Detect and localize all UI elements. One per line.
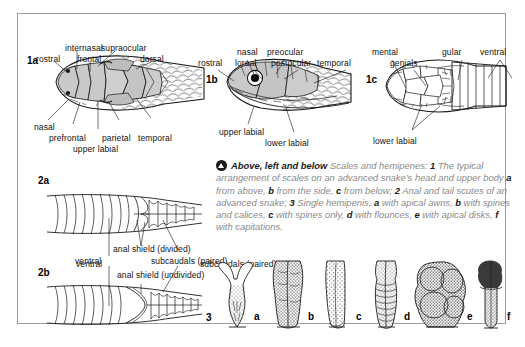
illustration-plate: 1a — [0, 0, 525, 347]
label-1a-parietal: parietal — [102, 133, 131, 143]
label-1c-mental: mental — [372, 47, 398, 57]
label-1b-rostral: rostral — [198, 58, 222, 68]
caption-item3e-num: e — [414, 209, 419, 220]
label-1a-internasal: internasal — [65, 43, 103, 53]
label-1b-loreal: loreal — [235, 58, 256, 68]
plate-frame: 1a — [17, 13, 506, 324]
caption-item1-num: 1 — [430, 160, 435, 171]
hemipenis-figure-e — [410, 261, 472, 333]
up-triangle-in-circle-icon — [216, 160, 227, 171]
label-1c-genials: genials — [390, 58, 418, 68]
hemipenis-figure-f — [473, 261, 509, 333]
caption-item3c-num: c — [268, 209, 273, 220]
label-1a-nasal: nasal — [34, 122, 55, 132]
caption-item1a-text: from above, — [216, 185, 266, 196]
caption-item3d-text: with flounces, — [355, 209, 412, 220]
caption-item3-num: 3 — [290, 197, 295, 208]
label-1a-rostral: rostral — [36, 54, 60, 64]
label-1a-dorsal: dorsal — [140, 54, 164, 64]
label-1b-nasal: nasal — [237, 47, 258, 57]
hemipenis-letter-d: d — [404, 311, 410, 322]
figure-caption: Above, left and below Scales and hemipen… — [216, 160, 516, 234]
label-1a-temporal: temporal — [138, 133, 172, 143]
hemipenis-letter-a: a — [254, 311, 260, 322]
label-1a-upper-labial: upper labial — [73, 144, 118, 154]
caption-item3d-num: d — [347, 209, 353, 220]
label-1a-frontal: frontal — [77, 54, 101, 64]
caption-item1b-num: b — [268, 185, 274, 196]
panel-id-2a: 2a — [38, 175, 49, 186]
caption-item3-text: Single hemipenis, — [297, 197, 371, 208]
caption-item3b-num: b — [455, 197, 461, 208]
label-1a-supraocular: supraocular — [101, 43, 147, 53]
label-2b-ventral: ventral — [76, 259, 102, 269]
label-2b-anal-shield: anal shield (undivided) — [117, 270, 204, 280]
label-1b-temporal: temporal — [317, 58, 351, 68]
caption-item3e-text: with apical disks, — [422, 209, 492, 220]
label-1b-upper-labial: upper labial — [219, 127, 264, 137]
hemipenis-letter-b: b — [308, 311, 314, 322]
label-1b-postocular: postocular — [271, 58, 311, 68]
caption-item1c-text: from below; — [344, 185, 392, 196]
caption-item1b-text: from the side, — [276, 185, 333, 196]
caption-item3f-num: f — [495, 209, 498, 220]
caption-lead: Scales and hemipenes: — [330, 160, 427, 171]
label-1b-lower-labial: lower labial — [265, 138, 309, 148]
caption-item3f-text: with capitations. — [216, 221, 283, 232]
caption-heading: Above, left and below — [231, 160, 327, 171]
hemipenis-figure-a — [213, 261, 263, 333]
caption-item1c-num: c — [336, 185, 341, 196]
hemipenis-letter-c: c — [356, 311, 362, 322]
label-1a-prefrontal: prefrontal — [49, 133, 86, 143]
label-2a-anal-shield: anal shield (divided) — [113, 244, 191, 254]
caption-item2-num: 2 — [395, 185, 400, 196]
hemipenis-letter-e: e — [467, 311, 473, 322]
label-1c-lower-labial: lower labial — [373, 136, 417, 146]
caption-item3a-text: with apical awns, — [382, 197, 453, 208]
hemipenis-figure-c — [318, 261, 356, 333]
hemipenis-figure-b — [266, 261, 310, 333]
label-1c-gular: gular — [442, 47, 461, 57]
caption-item3c-text: with spines only, — [276, 209, 344, 220]
caption-item3a-num: a — [374, 197, 379, 208]
hemipenis-figure-d — [366, 261, 406, 333]
label-1b-preocular: preocular — [267, 47, 303, 57]
label-1c-ventral: ventral — [480, 47, 506, 57]
caption-item1a-num: a — [506, 172, 511, 183]
panel-id-3: 3 — [206, 312, 212, 323]
hemipenis-letter-f: f — [507, 311, 510, 322]
